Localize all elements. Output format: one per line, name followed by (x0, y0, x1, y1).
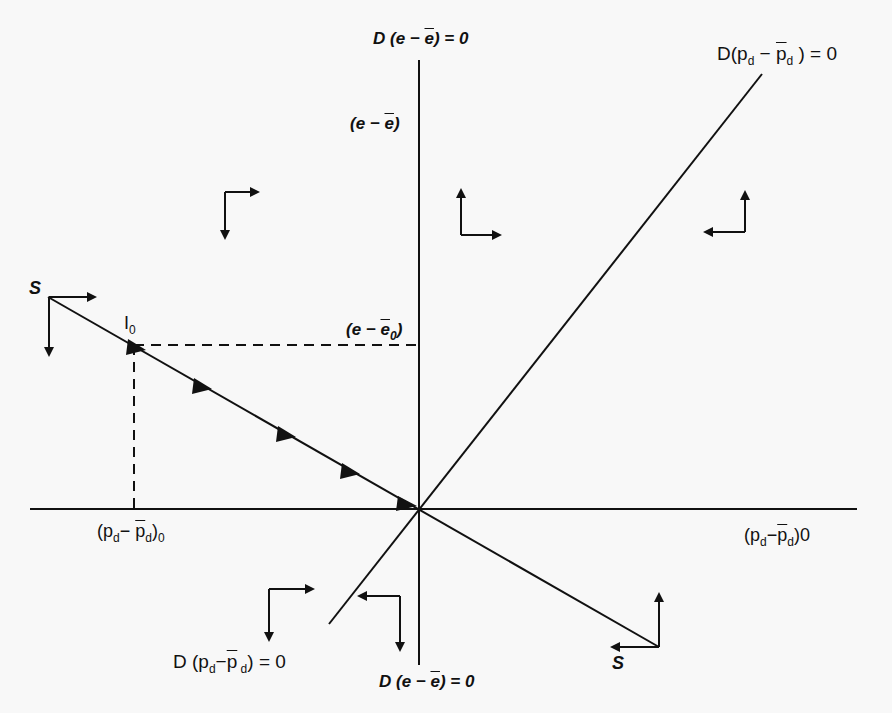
label-part: 0 (158, 531, 165, 545)
label-part: (p (744, 525, 760, 545)
label-pd-locus-top: D(pd − pd ) = 0 (717, 44, 837, 63)
arrowhead-icon (192, 378, 212, 394)
label-part: d (760, 535, 767, 549)
arrowhead-icon (340, 463, 360, 479)
label-part: p (135, 521, 145, 541)
label-part: p (776, 43, 787, 64)
label-part: (p (97, 521, 113, 541)
label-part: ) = 0 (440, 672, 475, 691)
label-part: − (120, 521, 136, 541)
direction-arrows-upper-right (705, 192, 745, 232)
label-top-D-e: D (e − e) = 0 (373, 30, 468, 47)
label-part: e (431, 672, 440, 691)
label-part: e (385, 114, 394, 133)
label-part: ) (397, 320, 403, 339)
direction-arrows-lower-middle (359, 596, 400, 650)
label-part: d (787, 535, 794, 549)
label-part: − (754, 43, 776, 64)
label-part: (e − (346, 320, 381, 339)
label-S-bottom: S (612, 654, 624, 672)
arrowhead-icon (276, 426, 296, 442)
direction-arrows-upper-middle (461, 190, 500, 235)
label-part: d (209, 662, 216, 676)
label-pd-locus-bottom: D (pd−p d) = 0 (173, 652, 286, 671)
label-part: d (113, 531, 120, 545)
label-part: ) = 0 (434, 29, 469, 48)
direction-arrows-S-end (612, 594, 659, 647)
label-part: )0 (794, 525, 810, 545)
phase-diagram: D (e − e) = 0 (e − e) D(pd − pd ) = 0 S … (0, 0, 892, 713)
label-I0: I0 (124, 314, 136, 332)
direction-arrows-lower-left (269, 589, 313, 640)
label-part: 0 (129, 323, 136, 337)
direction-arrows-S-start (49, 297, 95, 355)
label-part: d (145, 531, 152, 545)
label-part: D(p (717, 43, 748, 64)
label-part: e (381, 320, 390, 339)
label-part: d (748, 54, 755, 68)
label-part: − (767, 525, 778, 545)
pd-locus-line (329, 74, 762, 624)
label-pd0-right: (pd−pd)0 (744, 526, 810, 544)
label-part: D (p (173, 651, 209, 672)
label-part: − (216, 651, 227, 672)
direction-arrows-upper-left (225, 192, 258, 238)
label-part: p (777, 525, 787, 545)
label-part: 0 (390, 329, 397, 343)
label-part: ) (394, 114, 400, 133)
label-part: D (e − (373, 29, 425, 48)
label-part: ) = 0 (247, 651, 286, 672)
label-part: D (e − (379, 672, 431, 691)
label-part: d (787, 54, 794, 68)
label-part: d (237, 662, 247, 676)
arrowhead-I0-icon (126, 339, 146, 355)
label-S-top: S (29, 279, 41, 297)
label-e0: (e − e0) (346, 321, 402, 338)
diagram-lines (0, 0, 892, 713)
label-part: ) = 0 (793, 43, 837, 64)
label-bottom-D-e: D (e − e) = 0 (379, 673, 474, 690)
label-vertical-axis: (e − e) (350, 115, 400, 132)
label-part: e (425, 29, 434, 48)
label-part: p (227, 651, 238, 672)
label-pd0-left: (pd− pd)0 (97, 522, 165, 540)
label-part: (e − (350, 114, 385, 133)
